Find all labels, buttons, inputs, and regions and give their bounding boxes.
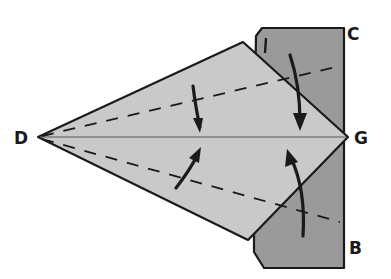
label-c: C xyxy=(347,24,359,44)
label-b: B xyxy=(349,238,362,258)
label-g: G xyxy=(354,128,368,148)
crease-tick xyxy=(265,38,266,53)
label-d: D xyxy=(14,128,28,148)
origami-diagram: D G C B xyxy=(0,0,391,279)
